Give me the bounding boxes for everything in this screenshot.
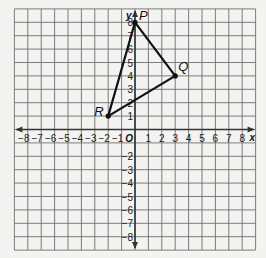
y-tick-label: 3 [127,84,133,95]
x-tick-label: 5 [199,133,205,144]
coordinate-plane: −8−7−6−5−4−3−2−11234567887654321−2−3−4−5… [0,0,266,258]
x-tick-label: 3 [172,133,178,144]
x-tick-label: 8 [239,133,245,144]
tick-labels: −8−7−6−5−4−3−2−11234567887654321−2−3−4−5… [18,10,256,243]
x-tick-label: −5 [58,133,70,144]
x-tick-label: 6 [213,133,219,144]
x-tick-label: −4 [72,133,84,144]
x-tick-label: 4 [186,133,192,144]
y-tick-label: −2 [122,151,134,162]
y-tick-label: −4 [122,178,134,189]
x-tick-label: −1 [112,133,124,144]
x-tick-label: 7 [226,133,232,144]
point-p [132,20,137,25]
triangle-outline [108,22,175,116]
y-tick-label: 1 [127,111,133,122]
y-tick-label: −6 [122,205,134,216]
y-tick-label: 5 [127,58,133,69]
y-tick-label: −7 [122,218,134,229]
x-tick-label: −2 [98,133,110,144]
axes [15,10,254,249]
point-label-q: Q [178,59,188,74]
point-r [106,114,111,119]
y-tick-label: −3 [122,165,134,176]
point-q [173,73,178,78]
y-tick-label: −8 [122,232,134,243]
x-tick-label: −8 [18,133,30,144]
y-tick-label: −5 [122,192,134,203]
x-tick-label: 2 [159,133,165,144]
point-label-r: R [94,104,103,119]
x-tick-label: 1 [146,133,152,144]
y-axis-arrow-up-icon [132,10,138,17]
y-tick-label: 4 [127,71,133,82]
y-axis-label: y [125,10,132,21]
x-tick-label: −6 [45,133,57,144]
y-axis-arrow-down-icon [132,242,138,249]
x-tick-label: −3 [85,133,97,144]
origin-label: O [125,133,133,144]
x-tick-label: −7 [31,133,43,144]
x-axis-label: x [249,132,256,143]
point-label-p: P [139,8,148,23]
